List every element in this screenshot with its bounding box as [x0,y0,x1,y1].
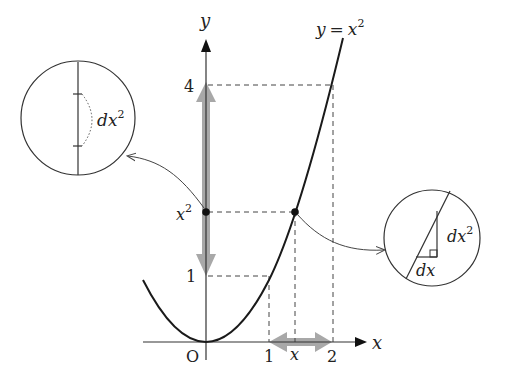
y-tick-4: 4 [184,77,194,96]
point-x2-on-yaxis [202,208,210,216]
connector-left [128,156,204,208]
curve-label: y=x2 [315,17,364,39]
dashed-guides [208,85,333,342]
x-tick-2: 2 [327,347,337,366]
y-axis-label: y [199,10,211,31]
parabola-curve [143,38,343,342]
x-tick-x: x [290,345,299,364]
y-tick-x2: x2 [176,202,192,224]
y-tick-1: 1 [186,267,196,286]
connector-right [297,214,384,250]
parabola-diagram: dx2 dx2 dx y=x2 y x O 1 x 2 4 1 x2 [0,0,514,387]
x-axis-label: x [372,332,382,353]
x-tick-1: 1 [264,347,274,366]
right-zoom-run-label: dx [416,261,435,280]
origin-label: O [186,347,199,366]
